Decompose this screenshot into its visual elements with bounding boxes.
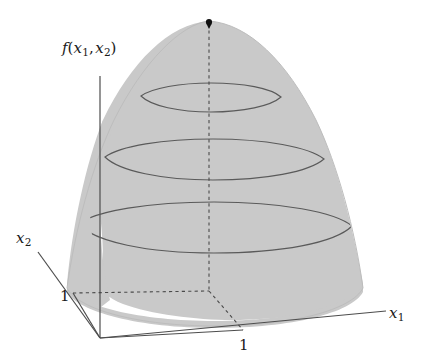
- x2-axis-label: x2: [16, 231, 31, 247]
- function-surface: [67, 21, 363, 328]
- surface-fill-body: [96, 21, 363, 320]
- f-axis-label-x-second: x: [95, 39, 103, 57]
- f-axis-label-x-first: x: [73, 39, 81, 57]
- f-axis-label-sub-2: 2: [104, 46, 111, 58]
- x1-axis-label-subscript: 1: [397, 311, 404, 323]
- f-axis-label-close-paren: ): [111, 39, 117, 57]
- x2-axis-label-subscript: 2: [24, 236, 31, 248]
- x1-tick-label-1: 1: [239, 338, 249, 353]
- figure-container: f(x1, x2) x1 x2 1 1: [0, 0, 421, 362]
- x2-tick-label-1: 1: [60, 289, 70, 304]
- f-axis-label: f(x1, x2): [62, 41, 116, 57]
- f-axis-label-sub-1: 1: [82, 46, 89, 58]
- f-axis-label-comma: ,: [89, 39, 94, 57]
- x1-axis-label: x1: [389, 306, 404, 322]
